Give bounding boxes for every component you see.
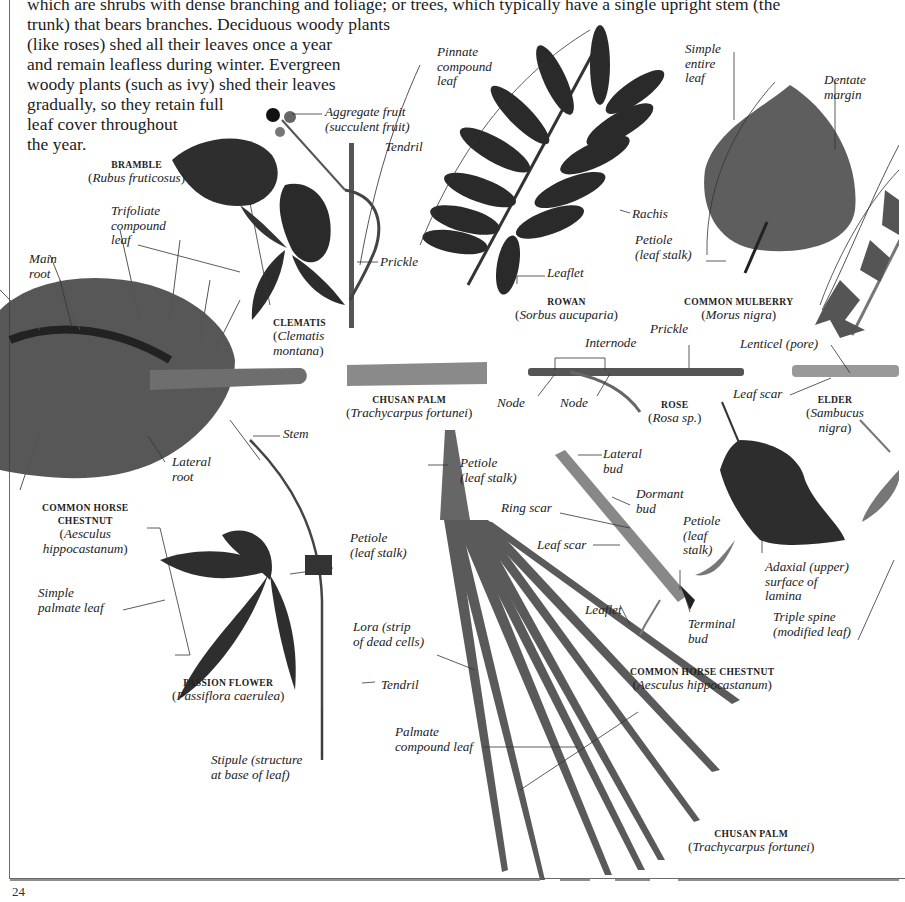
label-stipule: Stipule (structure at base of leaf)	[211, 753, 302, 782]
caption-sci: Aesculus hippocastanum	[637, 677, 768, 692]
caption-sci: Rubus fruticosus	[92, 170, 180, 185]
caption-elder: ELDER (Sambucus nigra)	[806, 393, 864, 435]
caption-mulberry: COMMON MULBERRY (Morus nigra)	[684, 295, 793, 323]
caption-sci: Trachycarpus fortunei	[692, 839, 810, 854]
intro-line: (like roses) shed all their leaves once …	[27, 34, 332, 54]
intro-line: gradually, so they retain full	[27, 94, 224, 114]
label-terminal-bud: Terminal bud	[688, 617, 735, 646]
caption-passion-flower: PASSION FLOWER (Passiflora caerulea)	[172, 676, 284, 704]
label-lora: Lora (strip of dead cells)	[353, 620, 424, 649]
label-main-root: Main root	[29, 252, 57, 281]
passion-flower-specimen	[160, 440, 332, 760]
label-petiole-passion: Petiole (leaf stalk)	[350, 531, 407, 560]
label-dentate: Dentate margin	[824, 73, 866, 102]
intro-line: and remain leafless during winter. Everg…	[27, 54, 341, 74]
caption-sci: Aesculus	[64, 526, 111, 541]
label-node-2: Node	[560, 396, 588, 411]
caption-rose: ROSE (Rosa sp.)	[648, 398, 702, 426]
label-ring-scar: Ring scar	[501, 501, 552, 516]
caption-sci: Morus nigra	[706, 307, 772, 322]
label-prickle-rose: Prickle	[650, 322, 688, 337]
label-simple-entire: Simple entire leaf	[685, 42, 721, 86]
label-leaflet-hc: Leaflet	[585, 603, 622, 618]
elder-leaves	[860, 420, 899, 522]
label-leaf-scar-elder: Leaf scar	[733, 387, 782, 402]
label-dormant-bud: Dormant bud	[636, 487, 684, 516]
label-leaf-scar-hc: Leaf scar	[537, 538, 586, 553]
label-lateral-bud: Lateral bud	[603, 447, 642, 476]
caption-name: COMMON HORSE	[42, 501, 128, 514]
label-leaflet-rowan: Leaflet	[547, 266, 584, 281]
caption-chusan-leaf: CHUSAN PALM (Trachycarpus fortunei)	[688, 827, 814, 855]
intro-line: trunk) that bears branches. Deciduous wo…	[27, 14, 390, 34]
label-triple-spine: Triple spine (modified leaf)	[773, 610, 851, 639]
label-palmate-compound: Palmate compound leaf	[395, 725, 473, 754]
label-rachis: Rachis	[632, 207, 668, 222]
label-simple-palmate: Simple palmate leaf	[38, 586, 104, 615]
page-number: 24	[12, 884, 25, 900]
label-tendril-bramble: Tendril	[385, 140, 423, 155]
label-adaxial: Adaxial (upper) surface of lamina	[765, 560, 849, 604]
caption-chusan-stem: CHUSAN PALM (Trachycarpus fortunei)	[346, 393, 472, 421]
caption-bramble: BRAMBLE (Rubus fruticosus)	[88, 158, 185, 186]
caption-sci: hippocastanum	[43, 541, 124, 556]
intro-line: which are shrubs with dense branching an…	[27, 0, 780, 14]
intro-line: the year.	[27, 134, 86, 154]
label-trifoliate: Trifoliate compound leaf	[111, 204, 166, 248]
label-petiole-hc: Petiole (leaf stalk)	[683, 514, 720, 558]
caption-sci: Rosa sp.	[652, 410, 697, 425]
label-node-1: Node	[497, 396, 525, 411]
caption-sci: montana	[273, 343, 319, 358]
caption-rowan: ROWAN (Sorbus aucuparia)	[515, 295, 618, 323]
caption-horse-chestnut-root: COMMON HORSE CHESTNUT (Aesculus hippocas…	[42, 501, 128, 556]
caption-clematis: CLEMATIS (Clematis montana)	[273, 316, 326, 358]
intro-line: leaf cover throughout	[27, 114, 178, 134]
chusan-palm-leaf	[440, 430, 740, 880]
caption-sci: Clematis	[277, 328, 324, 343]
caption-sci: nigra	[818, 420, 847, 435]
caption-sci: Sambucus	[810, 405, 863, 420]
mulberry-specimen	[704, 85, 855, 273]
label-petiole-palm: Petiole (leaf stalk)	[460, 456, 517, 485]
caption-sci: Sorbus aucuparia	[519, 307, 613, 322]
label-pinnate: Pinnate compound leaf	[437, 45, 492, 89]
label-stem: Stem	[283, 427, 309, 442]
caption-sci: Passiflora caerulea	[176, 688, 280, 703]
label-lenticel: Lenticel (pore)	[740, 337, 818, 352]
caption-horse-chestnut-twig: COMMON HORSE CHESTNUT (Aesculus hippocas…	[630, 665, 774, 693]
label-lateral-root: Lateral root	[172, 455, 211, 484]
label-tendril-passion: Tendril	[381, 678, 419, 693]
label-petiole-mulberry: Petiole (leaf stalk)	[635, 233, 692, 262]
label-prickle-bramble: Prickle	[380, 255, 418, 270]
intro-line: woody plants (such as ivy) shed their le…	[27, 74, 336, 94]
label-aggregate-fruit: Aggregate fruit (succulent fruit)	[325, 105, 410, 134]
label-internode: Internode	[585, 336, 636, 351]
caption-sci: Trachycarpus fortunei	[350, 405, 468, 420]
